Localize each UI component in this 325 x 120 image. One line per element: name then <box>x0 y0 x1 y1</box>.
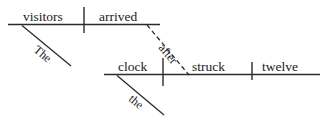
subordinate-subject-modifier-label: the <box>126 92 146 112</box>
sentence-diagram: visitors arrived The after clock struck … <box>0 0 325 120</box>
subordinate-connector-label: after <box>156 41 181 67</box>
diagram-canvas: visitors arrived The after clock struck … <box>0 0 325 120</box>
subordinate-subject-label: clock <box>118 59 147 74</box>
subordinate-object-label: twelve <box>262 59 298 74</box>
subordinate-verb-label: struck <box>192 59 225 74</box>
main-verb-label: arrived <box>99 9 137 24</box>
main-subject-label: visitors <box>23 9 63 24</box>
main-subject-modifier-label: The <box>31 43 54 66</box>
